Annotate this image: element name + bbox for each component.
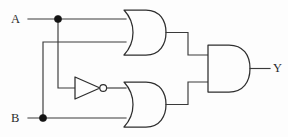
or-gate-1-body [124,10,166,55]
input-label-a: A [11,13,20,26]
not-gate-1-body [75,77,100,99]
and-gate-1-body [208,45,250,92]
wire-or1-to-and1 [166,33,209,56]
wire-a-branch-to-not1 [58,19,75,88]
output-label-y: Y [273,62,282,75]
wire-or2-to-and1 [166,82,209,105]
circuit-schematic-svg [0,0,288,137]
input-label-b: B [11,112,20,125]
circuit-diagram-canvas: A B Y [0,0,288,137]
not-gate-1-bubble-icon [100,85,107,92]
wire-b-branch-to-or1 [43,42,126,118]
junction-dot-node-a [54,15,61,22]
or-gate-2-body [124,82,166,127]
junction-dot-node-b [39,114,46,121]
